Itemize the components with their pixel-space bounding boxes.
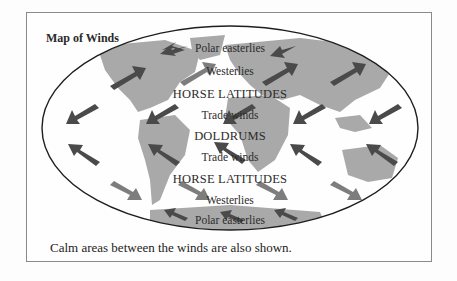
wind-band-label: HORSE LATITUDES xyxy=(0,87,457,102)
wind-band-label: HORSE LATITUDES xyxy=(0,172,457,187)
wind-band-label: DOLDRUMS xyxy=(0,129,457,144)
wind-band-label: Trade winds xyxy=(0,109,457,121)
wind-band-label: Westerlies xyxy=(0,194,457,206)
wind-band-label: Trade winds xyxy=(0,151,457,163)
map-caption: Calm areas between the winds are also sh… xyxy=(50,240,292,256)
wind-band-label: Westerlies xyxy=(0,65,457,77)
wind-band-label: Polar easterlies xyxy=(0,42,457,54)
wind-band-label: Polar easterlies xyxy=(0,214,457,226)
